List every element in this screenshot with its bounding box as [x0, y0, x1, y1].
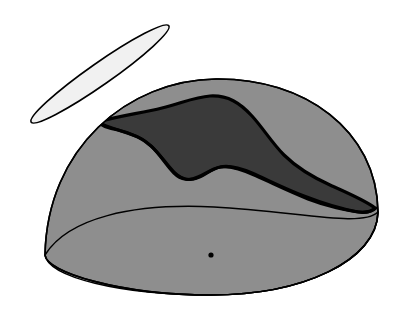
dome-center-point — [208, 252, 213, 257]
figure-root — [0, 0, 406, 314]
hemisphere-diagram-svg — [0, 0, 406, 314]
